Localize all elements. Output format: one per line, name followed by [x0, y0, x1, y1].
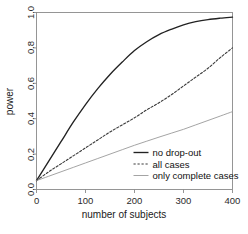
legend-label-only-complete-cases: only complete cases — [153, 170, 239, 181]
ytick-label-4: 0.8 — [25, 41, 36, 54]
ytick-label-1: 0.2 — [25, 147, 36, 160]
xtick-label-0: 0 — [34, 195, 39, 206]
x-axis-label: number of subjects — [0, 209, 248, 220]
ytick-label-2: 0.4 — [25, 112, 36, 125]
data-series — [37, 17, 233, 181]
power-curve-figure: 0.0 0.2 0.4 0.6 0.8 1.0 0 100 200 300 40… — [0, 0, 248, 234]
series-line-no-drop-out — [37, 17, 233, 181]
xtick-label-2: 200 — [127, 195, 143, 206]
xtick-label-3: 300 — [176, 195, 192, 206]
legend-line-samples — [134, 153, 149, 176]
xtick-label-4: 400 — [225, 195, 241, 206]
series-line-all-cases — [37, 48, 233, 181]
tick-marks — [33, 13, 233, 194]
ytick-label-3: 0.6 — [25, 77, 36, 90]
legend-label-all-cases: all cases — [153, 159, 190, 170]
xtick-label-1: 100 — [78, 195, 94, 206]
ytick-label-5: 1.0 — [25, 6, 36, 19]
axis-box — [37, 13, 233, 190]
legend-label-no-drop-out: no drop-out — [153, 147, 202, 158]
y-axis-label: power — [4, 87, 15, 114]
